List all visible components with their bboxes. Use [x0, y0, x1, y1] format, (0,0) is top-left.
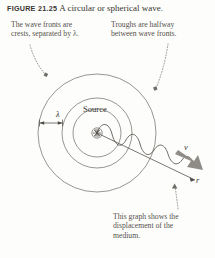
source-label: Source [83, 104, 107, 114]
leader-arrowhead-graph [172, 183, 178, 188]
wave-diagram [0, 0, 215, 258]
velocity-label: v [184, 143, 188, 152]
radial-axis-arrowhead [190, 178, 195, 182]
leader-line-wave-fronts [30, 45, 45, 74]
velocity-arrow [175, 150, 203, 170]
leader-line-graph [175, 186, 178, 209]
figure-container: FIGURE 21.25 A circular or spherical wav… [0, 0, 215, 258]
sine-wave-graph [97, 124, 194, 164]
leader-arrowhead-troughs [153, 86, 157, 90]
radial-axis-line [97, 133, 195, 180]
wavelength-arrow [40, 120, 63, 127]
leader-line-troughs [156, 44, 168, 88]
radial-axis-label: r [196, 176, 199, 185]
wavelength-label: λ [56, 110, 60, 119]
